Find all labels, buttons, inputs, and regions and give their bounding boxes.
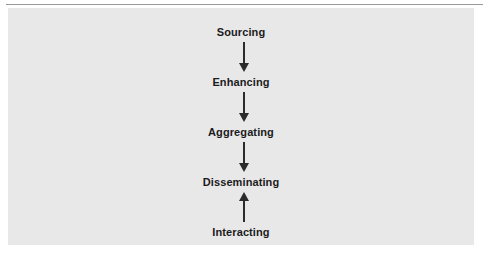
arrow-shaft bbox=[243, 142, 245, 165]
flow-arrow-sourcing-to-enhancing bbox=[238, 42, 250, 72]
flow-arrow-aggregating-to-disseminating bbox=[238, 142, 250, 172]
arrow-head-down-icon bbox=[239, 113, 249, 122]
flow-node-enhancing: Enhancing bbox=[8, 76, 474, 88]
flow-arrow-interacting-to-disseminating bbox=[238, 192, 250, 222]
flow-node-interacting: Interacting bbox=[8, 226, 474, 238]
arrow-head-down-icon bbox=[239, 163, 249, 172]
figure-panel: Sourcing Enhancing Aggregating Dissemina… bbox=[8, 8, 474, 245]
arrow-head-down-icon bbox=[239, 63, 249, 72]
arrow-shaft bbox=[243, 92, 245, 115]
arrow-shaft bbox=[243, 42, 245, 65]
flow-node-sourcing: Sourcing bbox=[8, 26, 474, 38]
flowchart: Sourcing Enhancing Aggregating Dissemina… bbox=[8, 8, 474, 245]
page-top-rule bbox=[6, 4, 483, 5]
flow-arrow-enhancing-to-aggregating bbox=[238, 92, 250, 122]
flow-node-disseminating: Disseminating bbox=[8, 176, 474, 188]
flow-node-aggregating: Aggregating bbox=[8, 126, 474, 138]
arrow-shaft bbox=[243, 199, 245, 222]
